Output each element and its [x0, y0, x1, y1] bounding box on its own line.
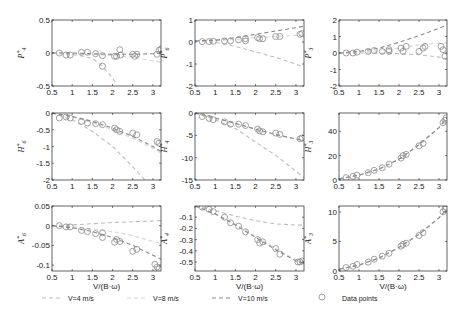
series-line: [195, 41, 304, 67]
x-tick-label: 1.5: [373, 182, 385, 191]
x-tick-label: 2.5: [127, 88, 139, 97]
y-tick-label: 0: [46, 109, 51, 118]
data-point-marker: [228, 38, 234, 44]
legend-item-data-points: Data points: [319, 294, 378, 303]
subplot-a3: 0.511.522.530510A*3V/(B·ω): [303, 204, 449, 291]
y-tick-label: 1: [189, 16, 194, 25]
x-tick-label: 1.5: [230, 182, 242, 191]
x-tick-label: 1: [70, 88, 75, 97]
y-tick-label: 0: [333, 176, 338, 185]
x-tick-label: 1.5: [87, 182, 99, 191]
y-tick-label: -2: [186, 82, 194, 91]
y-tick-label: -0.5: [36, 82, 50, 91]
y-axis-label: P*6: [159, 48, 170, 60]
x-tick-label: 1.5: [230, 273, 242, 282]
axes-box: [339, 113, 447, 180]
x-tick-label: 3: [151, 182, 156, 191]
y-axis-label: A*6: [16, 233, 27, 245]
x-tick-label: 1: [70, 182, 75, 191]
x-tick-label: 0.5: [46, 273, 58, 282]
y-tick-label: 0: [189, 38, 194, 47]
plot-area: [195, 26, 305, 67]
x-tick-label: 1.5: [87, 88, 99, 97]
y-tick-label: 10: [328, 208, 337, 217]
series-line: [195, 113, 304, 178]
y-tick-label: 0: [46, 222, 51, 231]
x-tick-label: 2: [253, 88, 258, 97]
data-point-marker: [416, 48, 422, 54]
x-tick-label: 2: [110, 88, 115, 97]
y-tick-label: 5: [333, 237, 338, 246]
data-point-marker: [277, 251, 283, 257]
legend-item-v10: V=10 m/s: [212, 295, 268, 302]
y-tick-label: 20: [328, 152, 337, 161]
data-point-marker: [236, 37, 242, 43]
legend-label-v4: V=4 m/s: [68, 295, 94, 302]
figure-canvas: 0.511.522.53-0.500.5P*40.511.522.53-2-10…: [0, 0, 464, 316]
subplot-h4: 0.511.522.53-15-10-50H*4: [159, 109, 305, 191]
y-tick-label: -0.1: [36, 261, 50, 270]
x-tick-label: 2: [110, 182, 115, 191]
x-tick-label: 1: [357, 273, 362, 282]
y-tick-label: -0.1: [179, 213, 193, 222]
y-axis-label: A*3: [303, 233, 314, 245]
axes-box: [195, 206, 304, 271]
x-tick-label: 2.5: [127, 182, 139, 191]
x-tick-label: 2.5: [413, 88, 425, 97]
data-point-marker: [228, 220, 234, 226]
x-tick-label: 0.5: [189, 273, 201, 282]
y-tick-label: -5: [186, 131, 194, 140]
x-tick-label: 2: [253, 273, 258, 282]
y-tick-label: -1: [186, 60, 194, 69]
x-tick-label: 1: [213, 88, 218, 97]
y-tick-label: -0.2: [179, 224, 193, 233]
axes-box: [339, 206, 447, 271]
x-tick-label: 1.5: [373, 88, 385, 97]
series-line: [52, 226, 161, 260]
y-tick-label: 0.5: [39, 16, 51, 25]
series-line: [195, 206, 304, 263]
y-axis-label: H*3: [303, 141, 314, 154]
y-axis-label: P*3: [303, 48, 314, 60]
x-tick-label: 3: [294, 88, 299, 97]
x-tick-label: 2.5: [270, 88, 282, 97]
plot-area: [52, 221, 162, 272]
series-line: [339, 209, 447, 269]
y-axis-label: H*4: [159, 141, 170, 154]
circle-marker-icon: [319, 294, 325, 300]
plot-area: [52, 46, 164, 84]
data-point-marker: [210, 38, 216, 44]
y-axis-label: A*4: [159, 233, 170, 245]
legend-label-v8: V=8 m/s: [153, 295, 179, 302]
legend-item-v4: V=4 m/s: [42, 295, 94, 302]
subplot-h3: 0.511.522.5302040H*3: [303, 113, 449, 191]
y-tick-label: -0.3: [179, 236, 193, 245]
legend-item-v8: V=8 m/s: [127, 295, 179, 302]
series-line: [339, 118, 447, 179]
series-line: [339, 209, 447, 269]
subplot-a4: 0.511.522.53-0.5-0.4-0.3-0.2-0.1A*4V/(B·…: [159, 204, 305, 291]
data-point-marker: [403, 43, 409, 49]
x-tick-label: 2.5: [270, 182, 282, 191]
x-tick-label: 2.5: [413, 182, 425, 191]
data-point-marker: [273, 130, 279, 136]
y-tick-label: -10: [181, 154, 193, 163]
x-tick-label: 2.5: [413, 273, 425, 282]
x-tick-label: 3: [437, 88, 442, 97]
y-tick-label: -1: [43, 143, 51, 152]
y-tick-label: -0.4: [179, 247, 193, 256]
series-line: [339, 25, 447, 53]
x-tick-label: 2.5: [270, 273, 282, 282]
y-axis-label: H*6: [16, 141, 27, 154]
data-point-marker: [93, 231, 99, 237]
legend: V=4 m/s V=8 m/s V=10 m/s Data points: [0, 288, 464, 308]
x-tick-label: 3: [151, 88, 156, 97]
series-line: [339, 209, 447, 269]
data-point-marker: [100, 63, 106, 69]
x-tick-label: 1: [70, 273, 75, 282]
subplot-a6: 0.511.522.53-0.1-0.0500.05A*6V/(B·ω): [16, 202, 162, 291]
series-line: [52, 53, 117, 84]
x-tick-label: 3: [437, 273, 442, 282]
y-tick-label: 40: [328, 127, 337, 136]
series-line: [339, 118, 447, 179]
